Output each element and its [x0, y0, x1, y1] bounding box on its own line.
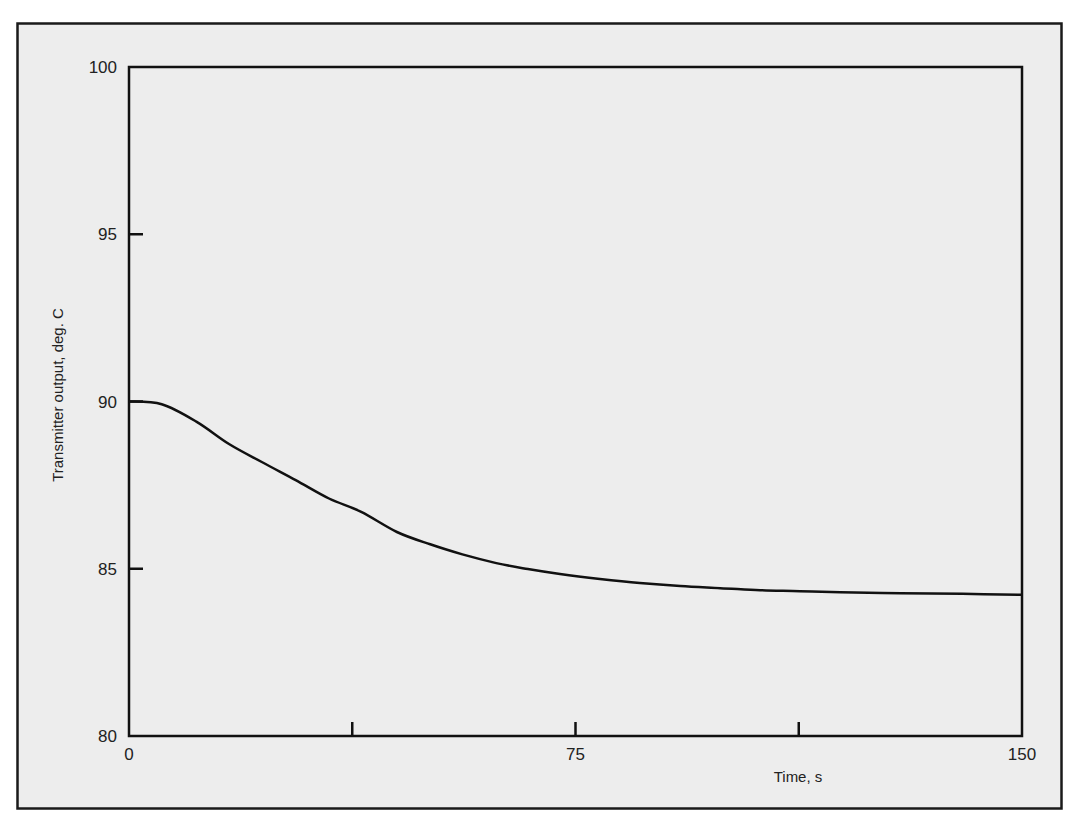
outer-frame [18, 24, 1062, 809]
x-axis-label: Time, s [774, 768, 823, 785]
x-tick-label: 75 [566, 745, 585, 764]
y-tick-label: 90 [98, 393, 117, 412]
y-axis-label: Transmitter output, deg. C [49, 308, 66, 482]
y-tick-label: 95 [98, 225, 117, 244]
x-tick-label: 0 [124, 745, 133, 764]
x-tick-label: 150 [1008, 745, 1036, 764]
y-tick-label: 80 [98, 727, 117, 746]
y-tick-label: 100 [89, 58, 117, 77]
chart: 075150 80859095100 Time, s Transmitter o… [0, 0, 1075, 827]
y-tick-label: 85 [98, 560, 117, 579]
